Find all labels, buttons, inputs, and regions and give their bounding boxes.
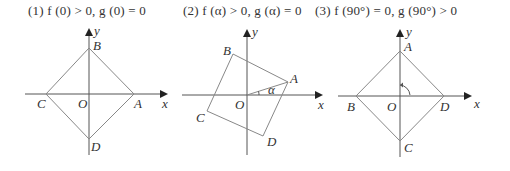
label-x: x <box>473 96 480 111</box>
label-D: D <box>90 139 101 154</box>
y-axis-arrow-icon <box>85 28 93 36</box>
label-D: D <box>439 99 450 114</box>
panel-3: y A B O D x C <box>338 24 480 157</box>
label-D: D <box>266 134 277 149</box>
y-axis-arrow-icon <box>396 29 404 37</box>
label-B: B <box>93 38 101 53</box>
label-O: O <box>78 96 88 111</box>
label-C: C <box>37 96 46 111</box>
label-O: O <box>235 97 245 112</box>
x-axis-arrow-icon <box>464 92 472 100</box>
angle-arc-icon <box>259 91 260 95</box>
label-A: A <box>289 71 298 86</box>
label-A: A <box>133 96 142 111</box>
label-x: x <box>317 97 324 112</box>
label-C: C <box>404 140 413 155</box>
label-y: y <box>404 24 412 39</box>
diagram-canvas: y B C O A x D y B A α O x C D y A B O <box>0 0 510 171</box>
y-axis-arrow-icon <box>243 29 251 37</box>
rotation-arc-icon <box>400 85 410 95</box>
panel-1: y B C O A x D <box>25 23 168 155</box>
label-A: A <box>403 39 412 54</box>
label-B: B <box>347 99 355 114</box>
label-y: y <box>250 24 258 39</box>
label-B: B <box>223 43 231 58</box>
label-x: x <box>161 96 168 111</box>
panel-2: y B A α O x C D <box>182 24 324 155</box>
label-O: O <box>387 99 397 114</box>
label-angle: α <box>268 82 276 97</box>
label-C: C <box>196 110 205 125</box>
label-y: y <box>92 23 100 38</box>
